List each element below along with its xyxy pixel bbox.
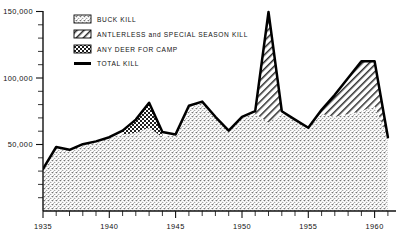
plot-areas bbox=[43, 12, 388, 211]
area-antlerless-special-season bbox=[255, 12, 282, 122]
legend-label-antlerless: ANTLERLESS and SPECIAL SEASON KILL bbox=[97, 31, 248, 38]
legend-swatch-any-deer-for-camp bbox=[74, 45, 91, 53]
y-tick-label-100000: 100,000 bbox=[3, 74, 33, 83]
x-tick-label-1950: 1950 bbox=[233, 222, 251, 231]
y-tick-label-150000: 150,000 bbox=[3, 7, 33, 16]
legend-swatch-buck-kill bbox=[74, 15, 91, 23]
legend-swatch-antlerless bbox=[74, 30, 91, 38]
legend-label-buck-kill: BUCK KILL bbox=[97, 16, 136, 23]
y-tick-label-50000: 50,000 bbox=[8, 140, 33, 149]
y-axis: 150,000 100,000 50,000 bbox=[3, 7, 43, 211]
x-tick-label-1935: 1935 bbox=[34, 222, 52, 231]
x-tick-label-1940: 1940 bbox=[100, 222, 118, 231]
x-tick-label-1955: 1955 bbox=[299, 222, 317, 231]
legend-label-any-deer-for-camp: ANY DEER FOR CAMP bbox=[97, 46, 178, 53]
x-tick-label-1960: 1960 bbox=[365, 222, 383, 231]
x-tick-label-1945: 1945 bbox=[166, 222, 184, 231]
chart-legend: BUCK KILL ANTLERLESS and SPECIAL SEASON … bbox=[74, 15, 248, 67]
x-minor-ticks bbox=[56, 211, 388, 216]
x-major-ticks bbox=[43, 211, 375, 218]
chart-container: 150,000 100,000 50,000 bbox=[0, 0, 402, 235]
deer-harvest-area-chart: 150,000 100,000 50,000 bbox=[0, 0, 402, 235]
x-axis: 1935 1940 1945 1950 1955 1960 bbox=[34, 211, 396, 231]
legend-label-total-kill: TOTAL KILL bbox=[97, 60, 139, 67]
